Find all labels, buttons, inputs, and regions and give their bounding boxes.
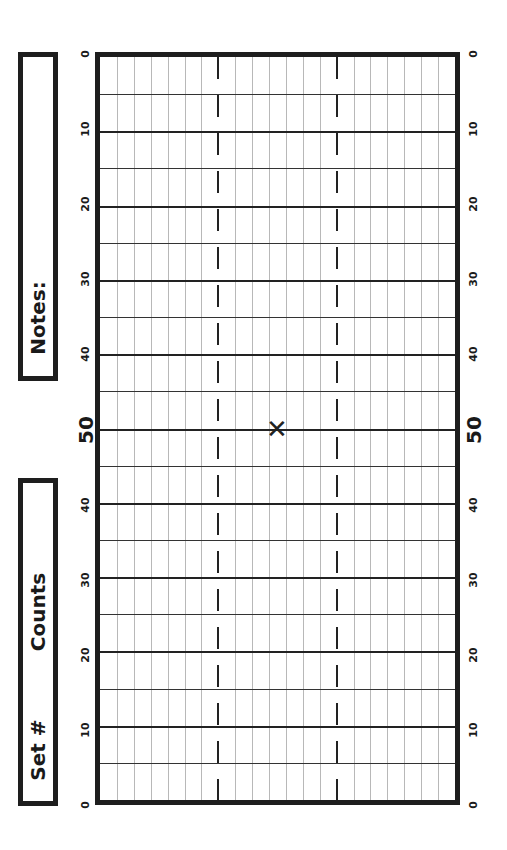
left-yard-number: 40 bbox=[79, 334, 93, 374]
yard-line-minor bbox=[100, 317, 455, 318]
left-yard-number: 40 bbox=[79, 485, 93, 525]
yard-line-major bbox=[100, 280, 455, 282]
left-yard-number: 0 bbox=[79, 34, 93, 74]
set-number-label: Set # bbox=[25, 700, 51, 800]
right-yard-number: 0 bbox=[467, 785, 481, 825]
left-yard-number: 30 bbox=[79, 259, 93, 299]
yard-line-minor bbox=[100, 94, 455, 95]
right-yard-number: 30 bbox=[467, 560, 481, 600]
right-yard-number: 20 bbox=[467, 184, 481, 224]
left-yard-number: 20 bbox=[79, 635, 93, 675]
yard-line-minor bbox=[100, 466, 455, 467]
yard-line-minor bbox=[100, 689, 455, 690]
yard-line-major bbox=[100, 354, 455, 356]
left-yard-number: 20 bbox=[79, 184, 93, 224]
right-yard-number: 0 bbox=[467, 34, 481, 74]
right-yard-number: 40 bbox=[467, 334, 481, 374]
right-yard-number: 40 bbox=[467, 485, 481, 525]
counts-label: Counts bbox=[25, 562, 51, 662]
right-yard-number: 50 bbox=[461, 410, 487, 450]
yard-line-major bbox=[100, 131, 455, 133]
right-yard-number: 20 bbox=[467, 635, 481, 675]
yard-line-minor bbox=[100, 614, 455, 615]
notes-label: Notes: bbox=[25, 268, 51, 368]
left-yard-number: 10 bbox=[79, 710, 93, 750]
yard-line-major bbox=[100, 651, 455, 653]
yard-line-minor bbox=[100, 540, 455, 541]
yard-line-minor bbox=[100, 391, 455, 392]
yard-line-major bbox=[100, 206, 455, 208]
yard-line-major bbox=[100, 503, 455, 505]
left-yard-number: 10 bbox=[79, 109, 93, 149]
right-yard-number: 10 bbox=[467, 710, 481, 750]
left-yard-number: 30 bbox=[79, 560, 93, 600]
center-x-mark: ✕ bbox=[266, 416, 288, 442]
right-yard-number: 10 bbox=[467, 109, 481, 149]
yard-line-minor bbox=[100, 763, 455, 764]
right-yard-number: 30 bbox=[467, 259, 481, 299]
yard-line-minor bbox=[100, 243, 455, 244]
yard-line-minor bbox=[100, 168, 455, 169]
yard-line-major bbox=[100, 577, 455, 579]
yard-line-major bbox=[100, 726, 455, 728]
left-yard-number: 0 bbox=[79, 785, 93, 825]
